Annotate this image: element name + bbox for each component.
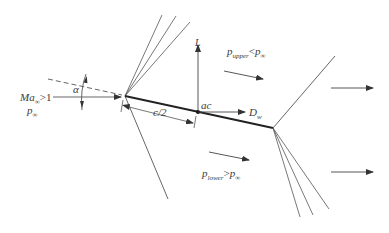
lower-pressure-label: plower>p∞ (202, 168, 240, 182)
lower-flow-arrow (209, 152, 249, 160)
freestream-mach-label: Ma∞>1 (20, 92, 51, 106)
le-expansion-wave-1 (125, 15, 162, 96)
dim-tick-right (194, 116, 196, 128)
airfoil-wave-diagram (0, 0, 389, 233)
alpha-arrowhead-bottom (80, 101, 84, 108)
wave-drag-label: Dw (249, 107, 262, 121)
dim-tick-left (121, 100, 123, 112)
te-expansion-wave-3 (273, 128, 329, 209)
upper-pressure-label: pupper<p∞ (227, 46, 266, 60)
diagram-canvas: Ma∞>1 p∞ α L ac Dw c/2 pupper<p∞ plower>… (0, 0, 389, 233)
te-expansion-wave-1 (273, 128, 300, 217)
upper-flow-arrow (224, 71, 263, 79)
te-oblique-shock (273, 56, 335, 128)
lift-label: L (195, 38, 201, 48)
le-expansion-wave-2 (125, 16, 176, 96)
aero-center-label: ac (201, 100, 211, 111)
le-expansion-wave-3 (125, 22, 190, 96)
te-expansion-wave-2 (273, 128, 313, 215)
freestream-pressure-label: p∞ (27, 105, 38, 119)
half-chord-label: c/2 (153, 107, 166, 118)
dim-arrowhead-left (122, 104, 130, 110)
angle-of-attack-label: α (73, 84, 79, 95)
